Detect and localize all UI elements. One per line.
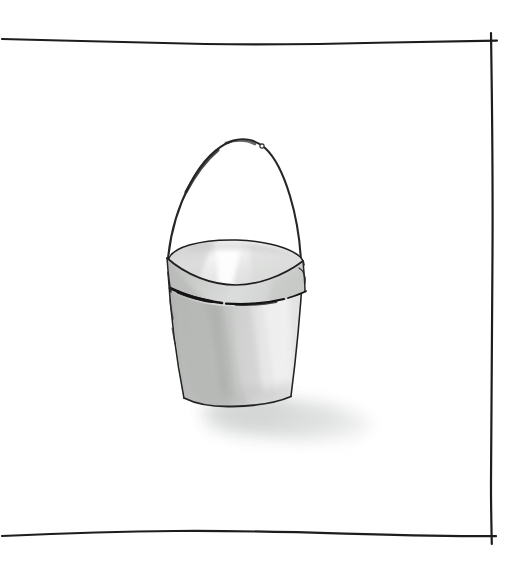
- bucket-illustration: Bucket: [0, 0, 523, 571]
- handle-joint-icon: [260, 144, 264, 148]
- artboard: Bucket A hand-drawn ink and watercolour …: [0, 0, 523, 571]
